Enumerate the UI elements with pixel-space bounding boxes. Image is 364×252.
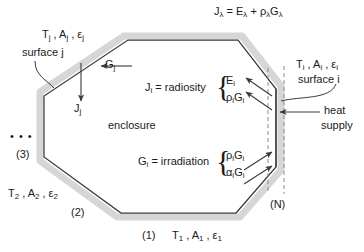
heat-supply-label-line2: supply — [321, 120, 353, 132]
surface-i-leader-line — [281, 84, 336, 101]
gj-sub: j — [114, 63, 116, 72]
e2: , ε — [39, 187, 53, 199]
ei-prop: , ε — [322, 58, 336, 70]
emission-arrow — [246, 78, 272, 96]
eq-plus: + — [250, 5, 256, 17]
jj-label: Jj — [74, 103, 81, 116]
e1: , ε — [203, 229, 217, 241]
ej-sub: j — [82, 33, 84, 42]
eq-equals: = — [227, 5, 233, 17]
a1: , A — [183, 229, 199, 241]
radiosity-term-reflected: ρiGi — [226, 90, 244, 107]
e1-sub: 1 — [218, 234, 222, 243]
t1: T — [172, 229, 179, 241]
surface-2-label: (2) — [71, 207, 84, 219]
spectral-radiosity-equation: Jλ = Eλ + ρλGλ — [214, 6, 283, 19]
surface-3-label: (3) — [16, 149, 29, 161]
irradiation-text: = irradiation — [148, 155, 209, 167]
jj-sub: j — [80, 107, 82, 116]
surface-2-properties: T2 , A2 , ε2 — [8, 188, 58, 201]
ti: T — [296, 58, 303, 70]
wall-band — [40, 36, 281, 217]
irradiation-terms: ρiGi αiGi — [226, 148, 244, 181]
surface-1-label: (1) — [142, 230, 155, 242]
surface-i-name: surface i — [298, 74, 340, 86]
aj: , A — [51, 28, 67, 40]
ej: , ε — [68, 28, 82, 40]
figure-canvas: Jλ = Eλ + ρλGλ Tj , Aj , εj surface j Gj… — [0, 0, 364, 252]
radiosity-text: = radiosity — [152, 81, 206, 93]
gj-main: G — [105, 58, 114, 70]
e2-sub: 2 — [54, 192, 58, 201]
eq-G: G — [270, 5, 279, 17]
gj-label: Gj — [105, 59, 115, 72]
surface-i-leader — [281, 84, 336, 101]
ei-sub: i — [233, 79, 235, 88]
rhoi-G-sub: i — [243, 95, 245, 104]
eq-E-sub: λ — [243, 10, 247, 19]
ei-prop-sub: i — [336, 63, 338, 72]
rhoi-G: G — [234, 91, 243, 103]
irradiation-term-absorbed: αiGi — [226, 165, 244, 182]
tj: T — [42, 28, 49, 40]
radiosity-terms: Ei ρiGi — [226, 73, 244, 106]
gi-main: G — [138, 155, 147, 167]
irradiation-term-reflected: ρiGi — [226, 148, 244, 165]
heat-supply-label-line1: heat — [324, 105, 345, 117]
radiosity-term-emission: Ei — [226, 73, 244, 90]
surface-j-properties: Tj , Aj , εj — [42, 29, 84, 42]
enclosure-label: enclosure — [108, 120, 156, 132]
rho-in-G-sub: i — [243, 154, 245, 163]
surface-j-name: surface j — [22, 47, 64, 59]
surface-N-label: (N) — [270, 199, 285, 211]
surface-1-properties: T1 , A1 , ε1 — [172, 230, 222, 243]
enclosure-wall-shadow — [40, 36, 281, 217]
ai: , A — [305, 58, 321, 70]
t2: T — [8, 187, 15, 199]
a2: , A — [19, 187, 35, 199]
alpha-G: G — [234, 166, 243, 178]
surface-ellipsis: • • • — [10, 131, 33, 143]
eq-G-sub: λ — [279, 10, 283, 19]
rho-in-G: G — [234, 149, 243, 161]
irradiation-label: Gi = irradiation — [138, 156, 209, 169]
alpha-G-sub: i — [243, 170, 245, 179]
radiosity-label: Ji = radiosity — [145, 82, 206, 95]
reflected-out-arrow — [246, 92, 272, 110]
surface-i-properties: Ti , Ai , εi — [296, 59, 338, 72]
eq-J-sub: λ — [220, 10, 224, 19]
